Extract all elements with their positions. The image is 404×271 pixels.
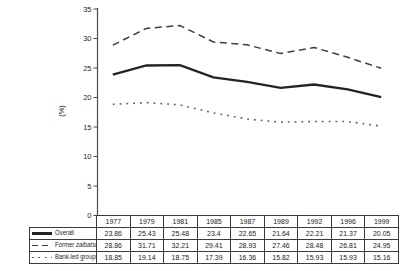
legend-cell: Bank-led groups	[30, 252, 97, 264]
y-axis: 05101520253035	[83, 5, 97, 221]
legend-label: Bank-led groups	[55, 254, 97, 261]
y-tick-label: 20	[83, 93, 91, 102]
value-cell: 19.14	[130, 252, 164, 264]
value-cell: 29.41	[197, 240, 231, 252]
value-cell: 27.46	[264, 240, 298, 252]
value-cell: 18.75	[164, 252, 198, 264]
value-cell: 18.85	[97, 252, 131, 264]
y-tick-label: 10	[83, 152, 91, 161]
value-cell: 20.05	[365, 228, 399, 240]
value-cell: 28.48	[298, 240, 332, 252]
data-table: 197719791981198519871989199219961999Over…	[29, 215, 399, 264]
value-cell: 25.43	[130, 228, 164, 240]
year-header-cell: 1999	[365, 216, 399, 228]
y-tick-label: 15	[83, 123, 91, 132]
legend-cell: Former zaibatsu	[30, 240, 97, 252]
series-row: Bank-led groups18.8519.1418.7517.3916.36…	[30, 252, 399, 264]
chart-figure: 05101520253035 (%) 197719791981198519871…	[0, 0, 404, 271]
series-row: Overall23.8625.4325.4823.422.6521.6422.2…	[30, 228, 399, 240]
year-header-row: 197719791981198519871989199219961999	[30, 216, 399, 228]
value-cell: 15.16	[365, 252, 399, 264]
value-cell: 25.48	[164, 228, 198, 240]
value-cell: 15.82	[264, 252, 298, 264]
value-cell: 21.37	[331, 228, 365, 240]
y-tick-label: 25	[83, 64, 91, 73]
legend-cell: Overall	[30, 228, 97, 240]
value-cell: 28.93	[231, 240, 265, 252]
year-header-cell: 1979	[130, 216, 164, 228]
series-line-overall	[113, 65, 381, 97]
value-cell: 15.93	[331, 252, 365, 264]
year-header-cell: 1977	[97, 216, 131, 228]
series-lines	[113, 26, 381, 127]
y-tick-label: 35	[83, 5, 91, 14]
value-cell: 17.39	[197, 252, 231, 264]
legend-label: Former zaibatsu	[55, 242, 97, 249]
value-cell: 15.93	[298, 252, 332, 264]
value-cell: 23.86	[97, 228, 131, 240]
series-line-bank-led-groups	[113, 103, 381, 127]
legend-line-sample-solid	[32, 232, 52, 235]
y-tick-label: 5	[87, 182, 91, 191]
value-cell: 31.71	[130, 240, 164, 252]
year-header-cell: 1987	[231, 216, 265, 228]
value-cell: 23.4	[197, 228, 231, 240]
value-cell: 24.95	[365, 240, 399, 252]
value-cell: 28.86	[97, 240, 131, 252]
y-tick-label: 30	[83, 34, 91, 43]
year-header-cell: 1985	[197, 216, 231, 228]
legend-label: Overall	[55, 230, 74, 237]
value-cell: 16.36	[231, 252, 265, 264]
series-row: Former zaibatsu28.8631.7132.2129.4128.93…	[30, 240, 399, 252]
year-header-cell: 1996	[331, 216, 365, 228]
value-cell: 22.21	[298, 228, 332, 240]
legend-line-sample-dashed	[32, 245, 52, 247]
series-line-former-zaibatsu	[113, 26, 381, 69]
value-cell: 32.21	[164, 240, 198, 252]
year-header-cell: 1981	[164, 216, 198, 228]
value-cell: 21.64	[264, 228, 298, 240]
legend-line-sample-dotted	[32, 257, 52, 259]
value-cell: 26.81	[331, 240, 365, 252]
table-corner-spacer	[30, 216, 97, 228]
value-cell: 22.65	[231, 228, 265, 240]
y-axis-title: (%)	[57, 105, 66, 117]
year-header-cell: 1989	[264, 216, 298, 228]
year-header-cell: 1992	[298, 216, 332, 228]
